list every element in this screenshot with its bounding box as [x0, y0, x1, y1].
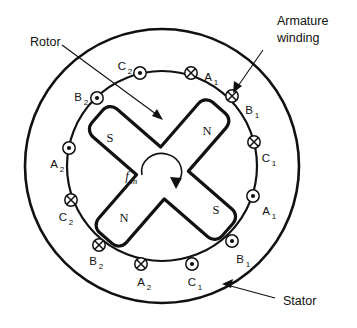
slot-label-b1-lower: B — [236, 253, 244, 265]
slot-marker-b1-in — [226, 90, 238, 102]
slot-label-b2-upper: B — [74, 91, 82, 103]
slot-label-a1-right: A — [262, 205, 270, 217]
slot-marker-b2-out — [91, 92, 103, 104]
slot-marker-b2-in — [93, 239, 105, 251]
slot-marker-c2-out-top — [134, 67, 146, 79]
slot-marker-a2-out — [63, 142, 75, 154]
rotor-pole-label-upper-right: N — [202, 124, 211, 138]
slot-sub-c2-left: 2 — [69, 218, 74, 227]
slot-marker-a1-in-top — [185, 67, 197, 79]
stator-callout-label: Stator — [283, 294, 316, 308]
slot-sub-c1-bottom: 1 — [198, 283, 203, 292]
slot-marker-a1-out — [247, 190, 259, 202]
slot-sub-b1-lower: 1 — [246, 260, 251, 269]
slot-marker-c2-in — [65, 194, 77, 206]
armature-winding-callout-label-line2: winding — [276, 31, 319, 45]
slot-sub-a2-left: 2 — [60, 165, 65, 174]
slot-label-c2-top: C — [118, 60, 126, 72]
rotation-speed-subscript: m — [131, 176, 138, 186]
slot-label-c1-bottom: C — [188, 276, 196, 288]
armature-winding-callout-label-line1: Armature — [277, 14, 328, 28]
slot-sub-a2-bottom: 2 — [147, 283, 152, 292]
slot-label-a2-bottom: A — [137, 276, 145, 288]
motor-diagram-svg: S N N S f m C 2 A 1 B 1 — [0, 0, 357, 328]
rotor-pole-label-lower-right: S — [213, 203, 220, 217]
slot-label-c2-left: C — [59, 211, 67, 223]
slot-label-a1-top: A — [204, 71, 212, 83]
rotor-callout-label: Rotor — [30, 35, 61, 49]
slot-marker-c1-out — [186, 258, 198, 270]
slot-marker-c1-in — [248, 136, 260, 148]
slot-sub-a1-right: 1 — [272, 212, 277, 221]
stator-callout-leader — [222, 279, 275, 298]
slot-label-b1-upper: B — [245, 104, 253, 116]
slot-label-c1-right: C — [262, 152, 270, 164]
slot-sub-b2-upper: 2 — [84, 98, 89, 107]
motor-cross-section-diagram: S N N S f m C 2 A 1 B 1 — [0, 0, 357, 328]
slot-sub-b2-lower: 2 — [99, 262, 104, 271]
slot-marker-b1-out — [226, 235, 238, 247]
slot-sub-c2-top: 2 — [128, 67, 133, 76]
slot-sub-b1-upper: 1 — [255, 111, 260, 120]
rotor-pole-label-lower-left: N — [119, 211, 128, 225]
rotor-pole-label-upper-left: S — [107, 131, 114, 145]
slot-label-b2-lower: B — [89, 255, 97, 267]
slot-label-a2-left: A — [50, 158, 58, 170]
armature-winding-callout-leader — [233, 50, 263, 93]
rotor-core — [88, 98, 237, 247]
slot-sub-c1-right: 1 — [272, 159, 277, 168]
slot-marker-a2-in — [135, 258, 147, 270]
slot-sub-a1-top: 1 — [214, 78, 219, 87]
